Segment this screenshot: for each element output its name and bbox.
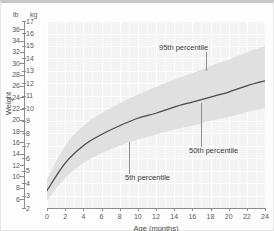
y-tick-lb-18: 18 (12, 128, 20, 135)
y-tickmark-kg-2 (22, 208, 26, 209)
x-tick-12: 12 (152, 213, 160, 220)
x-tick-24: 24 (261, 213, 269, 220)
y-tick-lb-14: 14 (12, 150, 20, 157)
x-tickmark-24 (265, 208, 266, 211)
y-tick-kg-2: 2 (26, 205, 30, 212)
x-tickmark-0 (47, 208, 48, 211)
x-tickmark-16 (192, 208, 193, 211)
y-tick-lb-20: 20 (12, 116, 20, 123)
x-tickmark-12 (156, 208, 157, 211)
y-tick-lb-26: 26 (12, 82, 20, 89)
y-tick-kg-6: 6 (26, 155, 30, 162)
y-tick-kg-17: 17 (26, 18, 34, 25)
y-tick-kg-4: 4 (26, 180, 30, 187)
x-tick-22: 22 (243, 213, 251, 220)
y-tick-lb-24: 24 (12, 94, 20, 101)
x-tickmark-2 (65, 208, 66, 211)
x-tickmark-10 (138, 208, 139, 211)
x-tick-14: 14 (170, 213, 178, 220)
y-tick-kg-15: 15 (26, 42, 34, 49)
x-axis-title: Age (months) (47, 224, 265, 231)
x-tickmark-4 (83, 208, 84, 211)
y-tick-kg-8: 8 (26, 130, 30, 137)
y-axis-spine (24, 21, 25, 208)
y-tick-lb-10: 10 (12, 173, 20, 180)
y-tick-kg-14: 14 (26, 55, 34, 62)
annotation-50th-percentile: 50th percentile (189, 147, 238, 155)
x-tickmark-14 (174, 208, 175, 211)
y-tick-lb-22: 22 (12, 105, 20, 112)
y-tick-kg-7: 7 (26, 142, 30, 149)
x-tick-6: 6 (100, 213, 104, 220)
x-tick-16: 16 (188, 213, 196, 220)
y-tick-lb-34: 34 (12, 37, 20, 44)
x-tickmark-20 (229, 208, 230, 211)
x-tick-0: 0 (45, 213, 49, 220)
x-tickmark-6 (102, 208, 103, 211)
y-tick-kg-13: 13 (26, 67, 34, 74)
y-tick-lb-12: 12 (12, 162, 20, 169)
x-tick-8: 8 (118, 213, 122, 220)
leader-line-95th-percentile (206, 52, 207, 71)
x-tick-20: 20 (225, 213, 233, 220)
y-tick-lb-30: 30 (12, 60, 20, 67)
x-tick-18: 18 (207, 213, 215, 220)
x-tickmark-8 (120, 208, 121, 211)
leader-line-5th-percentile (129, 142, 130, 174)
leader-line-50th-percentile (201, 103, 202, 147)
x-tick-4: 4 (81, 213, 85, 220)
y-tick-kg-3: 3 (26, 192, 30, 199)
y-tick-lb-36: 36 (12, 26, 20, 33)
annotation-95th-percentile: 95th percentile (159, 44, 208, 52)
y-tick-lb-28: 28 (12, 71, 20, 78)
growth-chart-figure: lb kg Weight 234567891011121314151617681… (0, 0, 274, 231)
y-tick-kg-10: 10 (26, 105, 34, 112)
x-tickmark-22 (247, 208, 248, 211)
y-tick-kg-16: 16 (26, 30, 34, 37)
x-tick-2: 2 (63, 213, 67, 220)
y-tick-kg-11: 11 (26, 92, 33, 99)
y-tick-kg-12: 12 (26, 80, 34, 87)
y-tick-kg-5: 5 (26, 167, 30, 174)
annotation-5th-percentile: 5th percentile (125, 174, 170, 182)
y-tick-kg-9: 9 (26, 117, 30, 124)
x-tickmark-18 (211, 208, 212, 211)
y-tick-lb-16: 16 (12, 139, 20, 146)
y-tick-lb-32: 32 (12, 48, 20, 55)
x-tick-10: 10 (134, 213, 142, 220)
